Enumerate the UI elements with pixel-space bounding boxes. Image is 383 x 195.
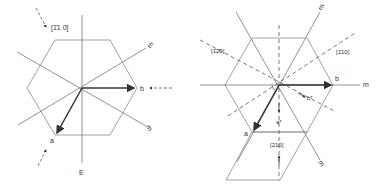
right-mirror-label-top: m bbox=[317, 3, 326, 12]
right-direction-label-bottom: [210] bbox=[270, 142, 284, 148]
right-mirror-label-bottom: m bbox=[317, 159, 326, 168]
right-direction-label-right: [1̄10] bbox=[336, 49, 350, 55]
right-vector-b-label: b bbox=[335, 75, 339, 82]
right-direction-label-left: [1̄2̄0] bbox=[211, 48, 225, 54]
right-parallelogram bbox=[226, 132, 307, 180]
left-mirror-label-1: m bbox=[146, 41, 155, 50]
left-direction-label: [1̄1 0] bbox=[51, 24, 69, 32]
left-vector-a bbox=[57, 88, 82, 133]
left-vector-b-label: b bbox=[140, 85, 144, 92]
right-vector-b-star-label: b* bbox=[307, 95, 313, 101]
right-vector-a-label: a bbox=[244, 130, 248, 137]
right-mirror-label-horizontal: m bbox=[363, 81, 369, 88]
left-mirror-label-2: m bbox=[145, 123, 154, 132]
left-direction-arrow-a bbox=[38, 150, 46, 166]
right-diagram: [1̄2̄0] [1̄10] [210] b a a* b* m m m bbox=[200, 3, 369, 180]
right-vector-a-star-label: a* bbox=[276, 119, 282, 125]
left-diagram: [1̄1 0] b a m m E bbox=[17, 8, 172, 176]
left-direction-arrow-top bbox=[36, 8, 46, 27]
crystallography-diagrams: [1̄1 0] b a m m E [1̄ bbox=[0, 0, 383, 195]
left-bottom-label: E bbox=[79, 169, 84, 176]
left-vector-a-label: a bbox=[50, 137, 54, 144]
